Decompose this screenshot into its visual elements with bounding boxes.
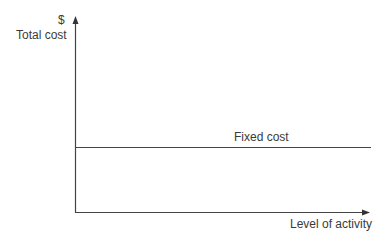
y-unit-label: $ — [58, 14, 65, 26]
fixed-cost-label: Fixed cost — [234, 131, 289, 143]
y-axis-label: Total cost — [16, 29, 67, 41]
x-axis-label: Level of activity — [290, 218, 372, 230]
